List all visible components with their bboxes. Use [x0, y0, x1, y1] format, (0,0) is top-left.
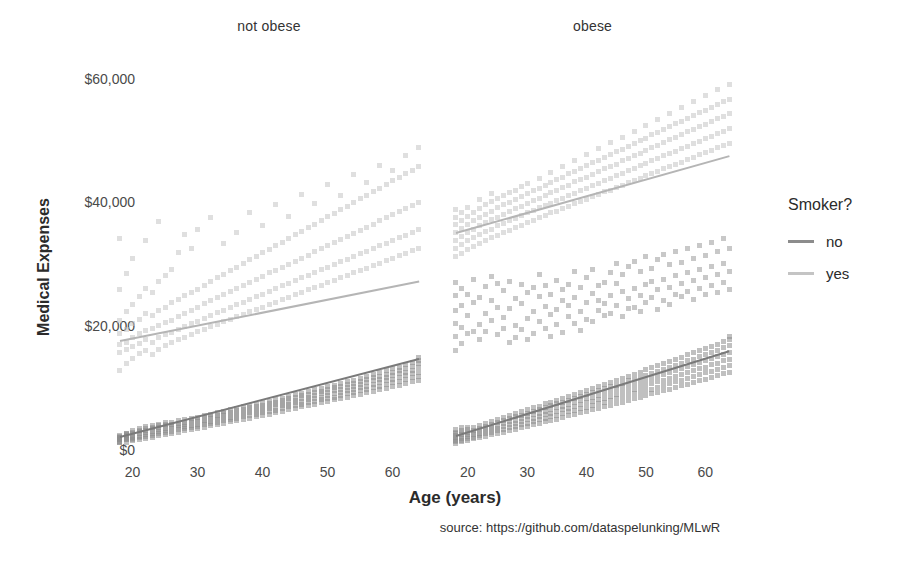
- data-point: [572, 158, 577, 163]
- legend-item-no[interactable]: no: [788, 228, 898, 254]
- data-point: [715, 272, 720, 277]
- data-point: [507, 190, 512, 195]
- data-point: [215, 275, 220, 280]
- data-point: [163, 273, 168, 278]
- data-point: [543, 326, 548, 331]
- data-point: [312, 387, 317, 392]
- data-point: [614, 401, 619, 406]
- data-point: [477, 197, 482, 202]
- data-point: [715, 342, 720, 347]
- data-point: [703, 93, 708, 98]
- data-point: [306, 225, 311, 230]
- data-point: [614, 261, 619, 266]
- data-point: [626, 374, 631, 379]
- data-point: [247, 210, 252, 215]
- data-point: [234, 230, 239, 235]
- data-point: [519, 301, 524, 306]
- data-point: [471, 300, 476, 305]
- data-point: [596, 158, 601, 163]
- data-point: [453, 215, 458, 220]
- legend-item-yes[interactable]: yes: [788, 260, 898, 286]
- data-point: [721, 236, 726, 241]
- data-point: [721, 99, 726, 104]
- data-point: [691, 374, 696, 379]
- data-point: [727, 82, 732, 87]
- data-point: [513, 296, 518, 301]
- data-point: [234, 302, 239, 307]
- x-tick-label: 60: [385, 464, 401, 480]
- data-point: [513, 225, 518, 230]
- data-point: [117, 350, 122, 355]
- data-point: [596, 308, 601, 313]
- data-point: [351, 254, 356, 259]
- data-point: [495, 305, 500, 310]
- data-point: [727, 246, 732, 251]
- data-point: [371, 189, 376, 194]
- data-point: [590, 160, 595, 165]
- data-point: [661, 153, 666, 158]
- data-point: [679, 378, 684, 383]
- data-point: [590, 399, 595, 404]
- data-point: [715, 87, 720, 92]
- data-point: [489, 227, 494, 232]
- data-point: [453, 238, 458, 243]
- data-point: [703, 122, 708, 127]
- data-point: [459, 303, 464, 308]
- data-point: [453, 246, 458, 251]
- data-point: [130, 302, 135, 307]
- data-point: [661, 140, 666, 145]
- data-point: [371, 372, 376, 377]
- data-point: [384, 241, 389, 246]
- data-point: [351, 378, 356, 383]
- data-point: [649, 279, 654, 284]
- data-point: [299, 391, 304, 396]
- x-tick-label: 30: [190, 464, 206, 480]
- data-point: [117, 318, 122, 323]
- data-point: [715, 361, 720, 366]
- data-point: [403, 233, 408, 238]
- data-point: [655, 130, 660, 135]
- data-point: [661, 388, 666, 393]
- data-point: [477, 232, 482, 237]
- data-point: [608, 270, 613, 275]
- data-point: [590, 403, 595, 408]
- data-point: [626, 383, 631, 388]
- data-point: [578, 390, 583, 395]
- data-point: [697, 372, 702, 377]
- data-point: [709, 375, 714, 380]
- data-point: [471, 218, 476, 223]
- data-point: [709, 134, 714, 139]
- data-point: [590, 267, 595, 272]
- data-point: [531, 331, 536, 336]
- data-point: [566, 204, 571, 209]
- data-point: [715, 373, 720, 378]
- data-point: [673, 292, 678, 297]
- data-point: [691, 256, 696, 261]
- data-point: [453, 334, 458, 339]
- data-point: [345, 379, 350, 384]
- data-point: [293, 292, 298, 297]
- data-point: [525, 191, 530, 196]
- data-point: [614, 303, 619, 308]
- data-point: [163, 305, 168, 310]
- data-point: [566, 171, 571, 176]
- data-point: [150, 313, 155, 318]
- data-point: [483, 329, 488, 334]
- legend-label-no: no: [826, 233, 843, 250]
- data-point: [338, 381, 343, 386]
- data-point: [679, 372, 684, 377]
- data-point: [477, 322, 482, 327]
- data-point: [673, 121, 678, 126]
- data-point: [416, 200, 421, 205]
- data-point: [584, 175, 589, 180]
- regression-line: [456, 155, 730, 234]
- data-point: [247, 257, 252, 262]
- plot-panel-obese: [450, 60, 735, 450]
- data-point: [471, 235, 476, 240]
- data-point: [319, 218, 324, 223]
- data-point: [208, 298, 213, 303]
- data-point: [489, 274, 494, 279]
- data-point: [703, 253, 708, 258]
- data-point: [638, 269, 643, 274]
- data-point: [643, 148, 648, 153]
